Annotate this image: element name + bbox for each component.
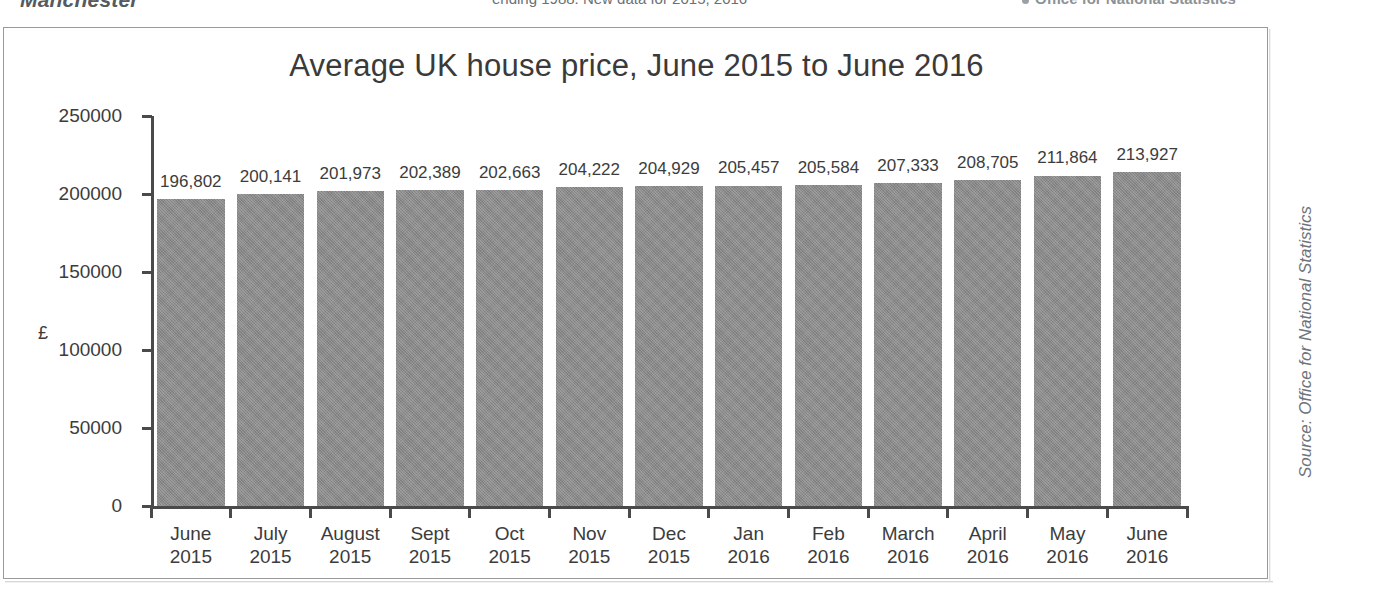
bar xyxy=(1113,172,1180,506)
x-axis-tick xyxy=(1026,506,1029,518)
bar xyxy=(157,199,224,506)
x-axis-category-label: March2016 xyxy=(882,522,935,568)
organisation-label: Office for National Statistics xyxy=(1035,0,1236,7)
publication-title: Manchester xyxy=(20,0,139,12)
frame-shadow-bottom xyxy=(5,581,1273,583)
y-axis-unit-label: £ xyxy=(38,323,48,344)
bar-value-label: 205,584 xyxy=(798,158,859,178)
x-axis-tick xyxy=(150,506,153,518)
frame-shadow-right xyxy=(1269,29,1271,581)
bar-value-label: 213,927 xyxy=(1116,145,1177,165)
bullet-icon xyxy=(1022,0,1029,4)
x-axis-category-line: June xyxy=(170,522,212,545)
x-axis-category-line: 2016 xyxy=(882,545,935,568)
plot-area: 050000100000150000200000250000 196,80220… xyxy=(151,116,1187,506)
x-axis-category-line: Sept xyxy=(409,522,451,545)
y-axis-tick: 200000 xyxy=(142,193,152,196)
x-axis-category-line: 2016 xyxy=(807,545,849,568)
bar xyxy=(1034,176,1101,507)
x-axis-category-line: June xyxy=(1126,522,1168,545)
x-axis-category-label: Feb2016 xyxy=(807,522,849,568)
y-axis-tick: 250000 xyxy=(142,115,152,118)
bar-value-label: 196,802 xyxy=(160,172,221,192)
x-axis-category-line: 2015 xyxy=(488,545,530,568)
x-axis-tick xyxy=(1186,506,1189,518)
page-header: Manchester ending 1988. New data for 201… xyxy=(0,0,1373,14)
x-axis-category-label: May2016 xyxy=(1046,522,1088,568)
y-axis-tick-label: 150000 xyxy=(59,261,122,283)
bar-value-label: 204,222 xyxy=(559,160,620,180)
y-axis-tick-label: 100000 xyxy=(59,339,122,361)
organisation-name: Office for National Statistics xyxy=(1022,0,1236,7)
x-axis-category-line: 2016 xyxy=(728,545,770,568)
x-axis-tick xyxy=(309,506,312,518)
bar xyxy=(237,194,304,506)
bar xyxy=(795,185,862,506)
x-axis-category-line: Jan xyxy=(728,522,770,545)
y-axis-tick: 50000 xyxy=(142,427,152,430)
bar xyxy=(317,191,384,506)
x-axis-category-label: Oct2015 xyxy=(488,522,530,568)
x-axis-category-line: 2015 xyxy=(321,545,380,568)
x-axis-category-line: March xyxy=(882,522,935,545)
x-axis-category-line: May xyxy=(1046,522,1088,545)
x-axis-tick xyxy=(787,506,790,518)
bar xyxy=(874,183,941,506)
x-axis-tick xyxy=(389,506,392,518)
x-axis-category-line: Dec xyxy=(648,522,690,545)
chart-title: Average UK house price, June 2015 to Jun… xyxy=(4,48,1269,84)
bar-value-label: 205,457 xyxy=(718,158,779,178)
y-axis-tick-label: 250000 xyxy=(59,105,122,127)
x-axis-tick xyxy=(707,506,710,518)
page-header-center-text: ending 1988. New data for 2015, 2016 xyxy=(492,0,747,7)
y-axis-tick: 100000 xyxy=(142,349,152,352)
x-axis-category-line: Nov xyxy=(568,522,610,545)
bar-value-label: 202,389 xyxy=(399,163,460,183)
bar xyxy=(396,190,463,506)
x-axis-category-line: 2015 xyxy=(249,545,291,568)
x-axis-category-line: 2015 xyxy=(648,545,690,568)
x-axis-tick xyxy=(946,506,949,518)
x-axis-tick xyxy=(468,506,471,518)
x-axis-tick xyxy=(628,506,631,518)
x-axis-tick xyxy=(1106,506,1109,518)
y-axis-tick-label: 200000 xyxy=(59,183,122,205)
x-axis-category-line: Feb xyxy=(807,522,849,545)
x-axis-category-line: July xyxy=(249,522,291,545)
x-axis-category-line: 2016 xyxy=(1126,545,1168,568)
x-axis-category-line: 2015 xyxy=(409,545,451,568)
bar-value-label: 207,333 xyxy=(877,156,938,176)
x-axis-tick xyxy=(229,506,232,518)
x-axis-category-line: 2015 xyxy=(170,545,212,568)
bar-value-label: 201,973 xyxy=(319,164,380,184)
x-axis-category-line: 2016 xyxy=(967,545,1009,568)
chart-frame: Average UK house price, June 2015 to Jun… xyxy=(3,27,1268,579)
bar xyxy=(715,186,782,507)
source-credit: Source: Office for National Statistics xyxy=(1296,206,1316,478)
y-axis-tick-label: 0 xyxy=(111,495,122,517)
x-axis-category-label: Dec2015 xyxy=(648,522,690,568)
x-axis-category-label: Nov2015 xyxy=(568,522,610,568)
bar xyxy=(476,190,543,506)
bar xyxy=(556,187,623,506)
x-axis-tick xyxy=(548,506,551,518)
x-axis-category-label: Sept2015 xyxy=(409,522,451,568)
x-axis-line xyxy=(151,506,1187,509)
x-axis-category-line: Oct xyxy=(488,522,530,545)
x-axis-category-label: July2015 xyxy=(249,522,291,568)
bar-value-label: 202,663 xyxy=(479,163,540,183)
y-axis-tick: 150000 xyxy=(142,271,152,274)
x-axis-category-line: 2015 xyxy=(568,545,610,568)
bar xyxy=(635,186,702,506)
x-axis-category-label: April2016 xyxy=(967,522,1009,568)
x-axis-category-label: August2015 xyxy=(321,522,380,568)
x-axis-category-line: 2016 xyxy=(1046,545,1088,568)
y-axis-line xyxy=(151,116,154,506)
x-axis-category-line: April xyxy=(967,522,1009,545)
x-axis-tick xyxy=(867,506,870,518)
x-axis-category-label: June2016 xyxy=(1126,522,1168,568)
bar-value-label: 200,141 xyxy=(240,167,301,187)
x-axis-category-line: August xyxy=(321,522,380,545)
bar-value-label: 211,864 xyxy=(1037,148,1097,168)
bar xyxy=(954,180,1021,506)
